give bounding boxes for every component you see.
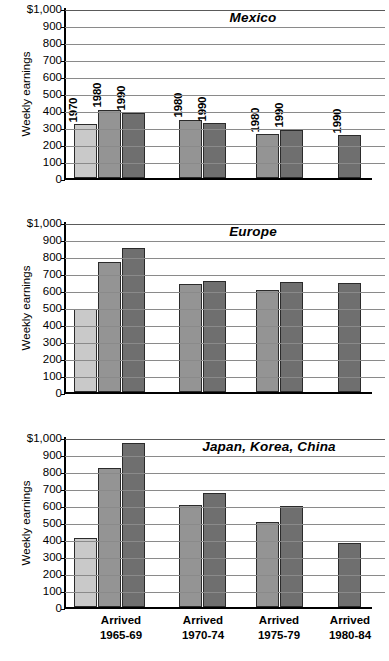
gridline (64, 224, 385, 225)
x-axis-group-labels: Arrived1965-69Arrived1970-74Arrived1975-… (66, 613, 372, 647)
bar-series (66, 437, 372, 607)
y-tick-label: $1,000 (27, 433, 62, 445)
y-tick-label: 200 (43, 569, 62, 581)
y-tick-label: $1,000 (27, 4, 62, 16)
y-tick-mark (61, 78, 65, 79)
gridline (64, 377, 385, 378)
y-tick-label: 700 (43, 55, 62, 67)
x-group-label: Arrived1970-74 (182, 613, 224, 642)
y-tick-mark (61, 10, 65, 11)
y-tick-label: 500 (43, 89, 62, 101)
y-tick-mark (61, 558, 65, 559)
y-tick-label: 300 (43, 337, 62, 349)
chart-panel-mexico: Weekly earnings $1,000900800700600500400… (0, 8, 389, 208)
gridline (64, 258, 385, 259)
bar: 1970 (74, 124, 97, 178)
bar-value-label: 1970 (67, 97, 79, 122)
y-tick-mark (61, 309, 65, 310)
gridline (64, 326, 385, 327)
y-tick-label: 200 (43, 354, 62, 366)
y-axis-ticks: $1,0009008007006005004003002001000 (18, 437, 64, 609)
bar: 1980 (256, 134, 279, 178)
y-tick-mark (61, 394, 65, 395)
plot-area: Japan, Korea, China (64, 437, 385, 609)
y-tick-label: 800 (43, 252, 62, 264)
gridline (64, 524, 385, 525)
y-tick-label: 100 (43, 371, 62, 383)
y-tick-label: 100 (43, 586, 62, 598)
y-tick-mark (61, 524, 65, 525)
y-tick-label: 400 (43, 320, 62, 332)
bar (256, 522, 279, 607)
gridline (64, 241, 385, 242)
y-tick-label: 300 (43, 552, 62, 564)
y-tick-label: 700 (43, 484, 62, 496)
bar (122, 248, 145, 393)
bar: 1990 (338, 135, 361, 178)
y-tick-mark (61, 377, 65, 378)
y-tick-mark (61, 44, 65, 45)
y-tick-mark (61, 473, 65, 474)
x-group-label-line1: Arrived (182, 613, 224, 628)
bar-value-label: 1990 (115, 86, 127, 111)
bar (98, 262, 121, 392)
gridline (64, 439, 385, 440)
bar (203, 493, 226, 608)
y-tick-mark (61, 275, 65, 276)
y-tick-mark (61, 592, 65, 593)
y-axis-ticks: $1,0009008007006005004003002001000 (18, 8, 64, 180)
plot-area: Mexico 19701980199019801990198019901990 (64, 8, 385, 180)
x-axis-line (64, 178, 372, 180)
y-tick-mark (61, 507, 65, 508)
gridline (64, 541, 385, 542)
gridline (64, 275, 385, 276)
gridline (64, 95, 385, 96)
y-tick-mark (61, 258, 65, 259)
bar: 1990 (203, 123, 226, 178)
gridline (64, 558, 385, 559)
bar: 1990 (280, 130, 303, 178)
y-tick-label: 900 (43, 235, 62, 247)
gridline (64, 163, 385, 164)
x-group-label: Arrived1965-69 (100, 613, 142, 642)
y-tick-mark (61, 180, 65, 181)
y-tick-label: 600 (43, 286, 62, 298)
bar (74, 309, 97, 392)
y-tick-mark (61, 146, 65, 147)
y-tick-label: 200 (43, 140, 62, 152)
x-group-label-line1: Arrived (100, 613, 142, 628)
gridline (64, 360, 385, 361)
bar-value-label: 1990 (273, 103, 285, 128)
y-tick-label: 400 (43, 106, 62, 118)
y-tick-label: 100 (43, 157, 62, 169)
y-tick-label: 800 (43, 38, 62, 50)
gridline (64, 78, 385, 79)
y-tick-mark (61, 224, 65, 225)
bar-series: 19701980199019801990198019901990 (66, 8, 372, 178)
gridline (64, 575, 385, 576)
y-tick-mark (61, 61, 65, 62)
gridline (64, 129, 385, 130)
gridline (64, 490, 385, 491)
y-tick-mark (61, 112, 65, 113)
gridline (64, 44, 385, 45)
y-tick-mark (61, 241, 65, 242)
y-tick-mark (61, 326, 65, 327)
x-axis-line (64, 607, 372, 609)
y-tick-label: 700 (43, 269, 62, 281)
y-tick-label: 500 (43, 303, 62, 315)
bar (74, 538, 97, 608)
x-axis-line (64, 392, 372, 394)
x-group-label-line2: 1965-69 (100, 628, 142, 643)
y-tick-label: 800 (43, 467, 62, 479)
bar-value-label: 1990 (196, 96, 208, 121)
y-tick-label: 600 (43, 72, 62, 84)
gridline (64, 146, 385, 147)
y-axis-ticks: $1,0009008007006005004003002001000 (18, 222, 64, 394)
x-group-label-line1: Arrived (329, 613, 371, 628)
gridline (64, 592, 385, 593)
y-tick-mark (61, 490, 65, 491)
y-tick-label: 900 (43, 450, 62, 462)
x-group-label: Arrived1980-84 (329, 613, 371, 642)
y-tick-label: 900 (43, 21, 62, 33)
